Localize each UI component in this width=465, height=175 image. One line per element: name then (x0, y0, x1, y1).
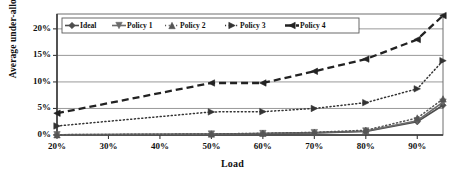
y-tick-label: 20% (17, 23, 51, 33)
x-tick-label: 90% (397, 141, 437, 151)
x-tick-label: 70% (294, 141, 334, 151)
legend-label-ideal: Ideal (80, 21, 96, 30)
y-tick-label: 10% (17, 76, 51, 86)
legend-label-policy-4: Policy 4 (300, 21, 326, 30)
x-tick-label: 30% (88, 141, 128, 151)
y-tick-label: 0% (17, 129, 51, 139)
x-tick-label: 20% (37, 141, 77, 151)
x-tick-label: 60% (243, 141, 283, 151)
chart-figure: Average under-allocation Load 0%5%10%15%… (0, 0, 465, 175)
y-tick-label: 5% (17, 102, 51, 112)
y-tick-label: 15% (17, 49, 51, 59)
x-tick-label: 40% (140, 141, 180, 151)
x-tick-label: 50% (191, 141, 231, 151)
legend-label-policy-2: Policy 2 (180, 21, 206, 30)
x-tick-label: 80% (346, 141, 386, 151)
legend-label-policy-3: Policy 3 (240, 21, 266, 30)
legend-label-policy-1: Policy 1 (127, 21, 153, 30)
